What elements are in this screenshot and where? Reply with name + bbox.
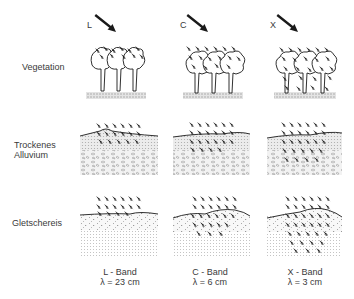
vegetation-L-panel — [86, 14, 146, 99]
alluvium-C-panel — [173, 122, 250, 175]
radar-penetration-diagram — [0, 0, 354, 299]
alluvium-X-panel — [267, 122, 342, 175]
vegetation-C-panel — [183, 14, 245, 99]
incident-arrow-L-icon — [95, 14, 117, 32]
ice-L-panel — [80, 196, 158, 258]
incident-arrow-C-icon — [187, 14, 209, 32]
ground-strip — [86, 92, 146, 99]
incident-arrow-X-icon — [277, 14, 299, 32]
tree-icon — [220, 51, 245, 93]
vegetation-X-panel — [274, 14, 337, 99]
ice-X-panel — [267, 196, 342, 258]
tree-icon — [312, 51, 337, 93]
tree-icon — [123, 47, 145, 91]
ice-C-panel — [173, 196, 250, 258]
alluvium-L-panel — [80, 123, 158, 175]
